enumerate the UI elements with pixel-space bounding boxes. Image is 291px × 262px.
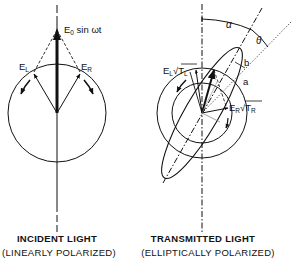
elliptically-polarized-caption: (ELLIPTICALLY POLARIZED) [141, 247, 275, 258]
rotation-arrow-left [21, 80, 30, 94]
polarization-diagram: E0 sin ωt EL ER INCIDENT LIGHT (LINEARLY… [0, 0, 291, 262]
left-transmitted-vector [196, 70, 202, 113]
resultant-arrowhead [53, 28, 61, 40]
resultant-label: E0 sin ωt [64, 24, 102, 36]
theta-label: θ [256, 35, 262, 46]
minor-axis-label: b [244, 57, 249, 68]
alpha-label: α [226, 19, 232, 30]
construction-line-gray [202, 113, 220, 122]
left-component-label: EL [19, 61, 29, 73]
left-transmitted-label: EL√TL [163, 65, 188, 77]
linearly-polarized-caption: (LINEARLY POLARIZED) [2, 247, 116, 258]
incident-light-diagram: E0 sin ωt EL ER INCIDENT LIGHT (LINEARLY… [2, 5, 116, 258]
transmitted-light-diagram: α θ b a EL√TL ER√TR TRANSMITTED LIGHT (E… [141, 4, 291, 258]
extra-vector-left [190, 72, 202, 113]
left-circular-vector [34, 74, 57, 113]
major-axis-label: a [243, 76, 249, 87]
transmitted-light-caption: TRANSMITTED LIGHT [151, 233, 255, 244]
rotation-arrow-right [84, 80, 93, 94]
right-transmitted-vector [202, 108, 228, 113]
right-component-label: ER [81, 61, 92, 73]
incident-light-caption: INCIDENT LIGHT [17, 233, 97, 244]
rotation-arrow-outer [177, 80, 186, 92]
right-transmitted-label: ER√TR [229, 102, 256, 114]
rotation-arrow-inner [226, 118, 228, 128]
right-circular-vector [57, 74, 80, 113]
